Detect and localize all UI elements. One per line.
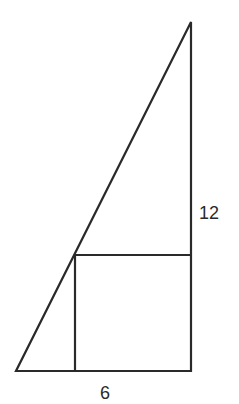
base-label: 6 <box>100 383 110 403</box>
height-label: 12 <box>199 203 219 223</box>
geometry-diagram: 12 6 <box>0 0 239 404</box>
inscribed-square <box>75 255 191 371</box>
right-triangle <box>16 22 191 371</box>
